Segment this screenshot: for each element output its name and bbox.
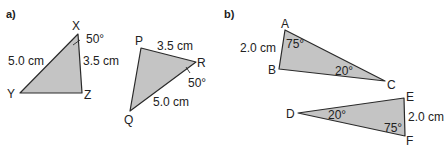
triangle-xyz: X Y Z 5.0 cm 3.5 cm 50° (7, 19, 119, 102)
vertex-y-label: Y (7, 87, 15, 101)
side-ef-label: 2.0 cm (408, 110, 444, 124)
triangle-pqr: P R Q 3.5 cm 5.0 cm 50° (124, 34, 206, 127)
congruent-triangles-diagram: a) b) X Y Z 5.0 cm 3.5 cm 50° P R Q 3.5 … (0, 0, 446, 147)
vertex-d-label: D (286, 107, 295, 121)
vertex-q-label: Q (124, 113, 133, 127)
vertex-p-label: P (135, 34, 143, 48)
side-xy-label: 5.0 cm (8, 54, 44, 68)
vertex-c-label: C (387, 78, 396, 92)
angle-f-label: 75° (384, 121, 402, 135)
angle-c-label: 20° (335, 64, 353, 78)
vertex-a-label: A (281, 17, 289, 31)
angle-x-label: 50° (86, 32, 104, 46)
part-b-label: b) (224, 8, 235, 20)
side-xz-label: 3.5 cm (83, 54, 119, 68)
vertex-e-label: E (406, 90, 414, 104)
vertex-f-label: F (406, 134, 413, 147)
vertex-b-label: B (268, 63, 276, 77)
side-ab-label: 2.0 cm (240, 41, 276, 55)
angle-d-label: 20° (328, 108, 346, 122)
angle-r-label: 50° (188, 76, 206, 90)
vertex-x-label: X (72, 19, 80, 33)
vertex-r-label: R (197, 56, 206, 70)
part-a-label: a) (6, 8, 16, 20)
side-pr-label: 3.5 cm (157, 39, 193, 53)
vertex-z-label: Z (84, 88, 91, 102)
triangle-abc: A B C 2.0 cm 75° 20° (240, 17, 396, 92)
side-qr-label: 5.0 cm (153, 95, 189, 109)
triangle-def: D E F 2.0 cm 20° 75° (286, 90, 444, 147)
angle-a-label: 75° (286, 37, 304, 51)
